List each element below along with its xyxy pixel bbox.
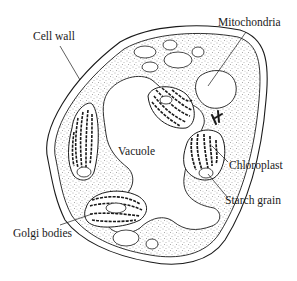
chloroplast-bottom <box>85 191 147 227</box>
plant-cell-diagram: Cell wall Mitochondria Vacuole Chloropla… <box>0 0 297 281</box>
small-vacuole <box>134 46 156 58</box>
starch-grain <box>199 168 213 178</box>
small-vacuole <box>163 40 177 50</box>
label-cell-wall: Cell wall <box>33 31 75 43</box>
small-vacuole <box>142 62 158 72</box>
small-vacuole <box>113 230 139 246</box>
mitochondrion <box>196 71 237 109</box>
leader-cell-wall <box>60 46 80 80</box>
label-vacuole: Vacuole <box>118 146 155 158</box>
chloroplast-right <box>184 130 225 180</box>
label-starch-grain: Starch grain <box>225 195 281 207</box>
label-mitochondria: Mitochondria <box>218 17 281 29</box>
label-chloroplast: Chloroplast <box>229 160 283 172</box>
label-golgi-bodies: Golgi bodies <box>13 228 72 240</box>
small-vacuole <box>192 47 204 57</box>
small-vacuole <box>146 239 158 249</box>
small-vacuole <box>164 52 192 68</box>
